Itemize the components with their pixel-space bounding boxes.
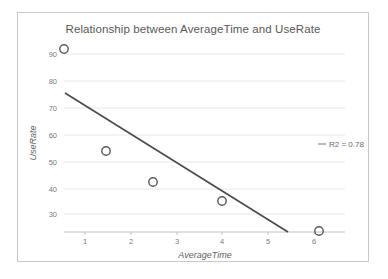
legend: R2 = 0.78 xyxy=(318,140,364,149)
y-tick-label-30: 30 xyxy=(49,210,57,219)
x-tick-label-4: 4 xyxy=(220,237,224,246)
x-tick-label-2: 2 xyxy=(129,237,133,246)
y-tick-label-60: 60 xyxy=(49,131,57,140)
x-tick-label-6: 6 xyxy=(312,237,316,246)
chart-container: Relationship between AverageTime and Use… xyxy=(17,12,369,262)
y-tick-label-80: 80 xyxy=(49,77,57,86)
data-point[interactable] xyxy=(60,45,68,53)
x-tick-label-3: 3 xyxy=(175,237,179,246)
x-axis-title: AverageTime xyxy=(177,250,231,260)
data-point[interactable] xyxy=(218,197,226,205)
y-axis-title: UseRate xyxy=(28,125,38,160)
y-tick-label-40: 40 xyxy=(49,185,57,194)
y-tick-label-90: 90 xyxy=(49,50,57,59)
x-tick-label-5: 5 xyxy=(266,237,270,246)
scatter-plot: 90 80 70 60 50 40 30 1 2 3 4 5 6 xyxy=(18,13,370,263)
x-tick-label-1: 1 xyxy=(83,237,87,246)
y-axis-tick-labels: 90 80 70 60 50 40 30 xyxy=(49,50,57,219)
data-points xyxy=(60,45,323,235)
data-point[interactable] xyxy=(149,178,157,186)
legend-label-r2: R2 = 0.78 xyxy=(329,140,364,149)
x-axis-tick-labels: 1 2 3 4 5 6 xyxy=(83,237,316,246)
gridlines xyxy=(64,54,345,214)
y-tick-label-50: 50 xyxy=(49,158,57,167)
data-point[interactable] xyxy=(102,147,110,155)
y-tick-label-70: 70 xyxy=(49,104,57,113)
data-point[interactable] xyxy=(315,227,323,235)
